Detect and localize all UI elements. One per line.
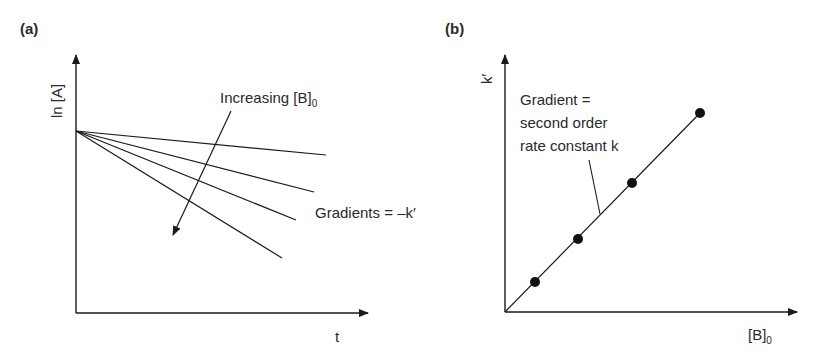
line-1 <box>76 131 326 155</box>
panel-a-label: (a) <box>20 20 38 37</box>
panel-b: (b) k′ [B]0 Gradient = second order rate… <box>445 20 797 346</box>
data-point <box>627 178 637 188</box>
panel-a: (a) ln [A] t Increasing [B]0 Gradients =… <box>20 20 416 345</box>
annotation-pointer <box>589 160 600 214</box>
annotation-line-2: second order <box>520 114 608 131</box>
data-point <box>530 277 540 287</box>
data-point <box>695 108 705 118</box>
line-4 <box>76 131 282 258</box>
gradient-label-a: Gradients = –k′ <box>315 204 416 221</box>
y-axis-label-a: ln [A] <box>48 84 65 118</box>
x-axis-label-a: t <box>335 328 340 345</box>
panel-b-label: (b) <box>445 20 464 37</box>
arrow-label: Increasing [B]0 <box>220 89 318 109</box>
figure: (a) ln [A] t Increasing [B]0 Gradients =… <box>0 0 824 359</box>
x-axis-label-b: [B]0 <box>748 326 772 346</box>
annotation-line-3: rate constant k <box>520 137 619 154</box>
data-point <box>573 234 583 244</box>
annotation-line-1: Gradient = <box>520 91 591 108</box>
increasing-arrow <box>173 111 231 235</box>
y-axis-label-b: k′ <box>478 74 495 85</box>
line-2 <box>76 131 314 192</box>
